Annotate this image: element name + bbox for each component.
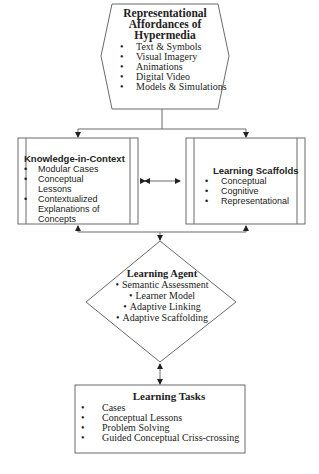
learning-agent-node: Learning Agent •Semantic Assessment •Lea… bbox=[100, 268, 224, 323]
bullet-icon: • bbox=[24, 194, 27, 204]
boxes-to-agent-connector bbox=[78, 226, 246, 240]
list-item: •Conceptual bbox=[203, 176, 303, 186]
list-item: •Modular Cases bbox=[22, 164, 134, 174]
list-item: •Conceptual Lessons bbox=[22, 174, 108, 194]
item-label: Conceptual Lessons bbox=[38, 174, 84, 194]
learning-scaffolds-node: Learning Scaffolds •Conceptual •Cognitiv… bbox=[203, 166, 303, 206]
list-item: •Semantic Assessment bbox=[100, 279, 224, 290]
bullet-icon: • bbox=[24, 164, 27, 174]
item-label: Representational bbox=[221, 196, 289, 206]
learning-scaffolds-list: •Conceptual •Cognitive •Representational bbox=[203, 176, 303, 206]
hypermedia-title: Representational Affordances of Hypermed… bbox=[110, 8, 220, 41]
hypermedia-node: Representational Affordances of Hypermed… bbox=[110, 8, 220, 92]
item-label: Models & Simulations bbox=[136, 81, 227, 92]
item-label: Semantic Assessment bbox=[122, 279, 208, 290]
learning-agent-list: •Semantic Assessment •Learner Model •Ada… bbox=[100, 279, 224, 323]
list-item: •Contextualized Explanations of Concepts bbox=[22, 194, 134, 224]
hypermedia-list: •Text & Symbols •Visual Imagery •Animati… bbox=[110, 42, 220, 92]
bullet-icon: • bbox=[205, 196, 208, 206]
item-label: Cognitive bbox=[221, 186, 259, 196]
list-item: •Adaptive Linking bbox=[100, 301, 224, 312]
list-item: •Cognitive bbox=[203, 186, 303, 196]
list-item: •Guided Conceptual Criss-crossing bbox=[78, 433, 246, 443]
list-item: •Learner Model bbox=[100, 290, 224, 301]
list-item: •Adaptive Scaffolding bbox=[100, 312, 224, 323]
item-label: Adaptive Linking bbox=[130, 301, 201, 312]
bullet-icon: • bbox=[116, 279, 120, 290]
bullet-icon: • bbox=[123, 301, 127, 312]
knowledge-in-context-node: Knowledge-in-Context •Modular Cases •Con… bbox=[22, 154, 134, 224]
knowledge-in-context-title: Knowledge-in-Context bbox=[22, 154, 134, 164]
bullet-icon: • bbox=[116, 312, 120, 323]
bullet-icon: • bbox=[81, 433, 85, 443]
item-label: Adaptive Scaffolding bbox=[122, 312, 208, 323]
item-label: Conceptual bbox=[221, 176, 267, 186]
bullet-icon: • bbox=[205, 176, 208, 186]
bullet-icon: • bbox=[205, 186, 208, 196]
hex-to-boxes-connector bbox=[78, 109, 246, 137]
learning-tasks-list: •Cases •Conceptual Lessons •Problem Solv… bbox=[78, 403, 246, 443]
item-label: Modular Cases bbox=[38, 164, 99, 174]
list-item: •Representational bbox=[203, 196, 303, 206]
title-line: Hypermedia bbox=[110, 30, 220, 41]
learning-agent-title: Learning Agent bbox=[100, 268, 224, 279]
item-label: Learner Model bbox=[135, 290, 195, 301]
item-label: Guided Conceptual Criss-crossing bbox=[102, 432, 239, 443]
bullet-icon: • bbox=[129, 290, 133, 301]
bullet-icon: • bbox=[120, 82, 124, 92]
item-label: Contextualized Explanations of Concepts bbox=[38, 194, 100, 224]
learning-scaffolds-title: Learning Scaffolds bbox=[203, 166, 303, 176]
learning-tasks-node: Learning Tasks •Cases •Conceptual Lesson… bbox=[78, 390, 246, 443]
bullet-icon: • bbox=[24, 174, 27, 184]
knowledge-in-context-list: •Modular Cases •Conceptual Lessons •Cont… bbox=[22, 164, 134, 224]
list-item: •Models & Simulations bbox=[110, 82, 220, 92]
